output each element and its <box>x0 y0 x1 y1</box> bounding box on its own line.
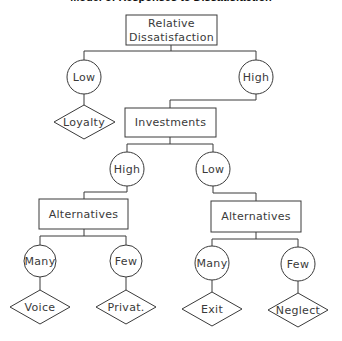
alternatives-left-label: Alternatives <box>49 208 119 221</box>
alternatives-right-node: Alternatives <box>211 201 301 232</box>
outcome-exit: Exit <box>182 292 242 326</box>
investments-high-label: High <box>114 163 140 176</box>
investments-high-node: High <box>110 152 144 186</box>
left-many-node: Many <box>24 245 56 277</box>
right-few-label: Few <box>287 258 309 271</box>
investments-low-label: Low <box>202 163 225 176</box>
left-many-label: Many <box>25 255 56 268</box>
right-many-node: Many <box>195 246 229 280</box>
alternatives-right-label: Alternatives <box>221 210 291 223</box>
outcome-privat: Privat. <box>96 290 156 324</box>
investments-low-node: Low <box>196 152 230 186</box>
outcome-exit-label: Exit <box>201 303 223 316</box>
decision-tree-diagram: Model of Responses to Dissatisfaction <box>0 0 342 341</box>
dissatisfaction-low-label: Low <box>73 71 96 84</box>
investments-label: Investments <box>135 116 206 129</box>
dissatisfaction-low-node: Low <box>67 60 101 94</box>
left-few-node: Few <box>110 245 142 277</box>
outcome-neglect: Neglect <box>268 293 328 327</box>
dissatisfaction-high-node: High <box>239 60 273 94</box>
root-node-relative-dissatisfaction: Relative Dissatisfaction <box>126 15 217 45</box>
outcome-neglect-label: Neglect <box>276 304 321 317</box>
investments-node: Investments <box>125 108 216 137</box>
right-many-label: Many <box>197 257 228 270</box>
outcome-voice-label: Voice <box>25 301 56 314</box>
alternatives-left-node: Alternatives <box>39 199 128 229</box>
right-few-node: Few <box>281 247 315 281</box>
outcome-privat-label: Privat. <box>107 301 144 314</box>
outcome-loyalty-label: Loyalty <box>63 116 105 129</box>
root-node-label-line1: Relative <box>148 17 195 30</box>
root-node-label-line2: Dissatisfaction <box>129 31 214 44</box>
outcome-voice: Voice <box>10 290 70 324</box>
left-few-label: Few <box>115 255 137 268</box>
dissatisfaction-high-label: High <box>243 71 269 84</box>
outcome-loyalty: Loyalty <box>54 105 115 139</box>
diagram-canvas: Relative Dissatisfaction Low High Loyalt… <box>0 0 342 341</box>
